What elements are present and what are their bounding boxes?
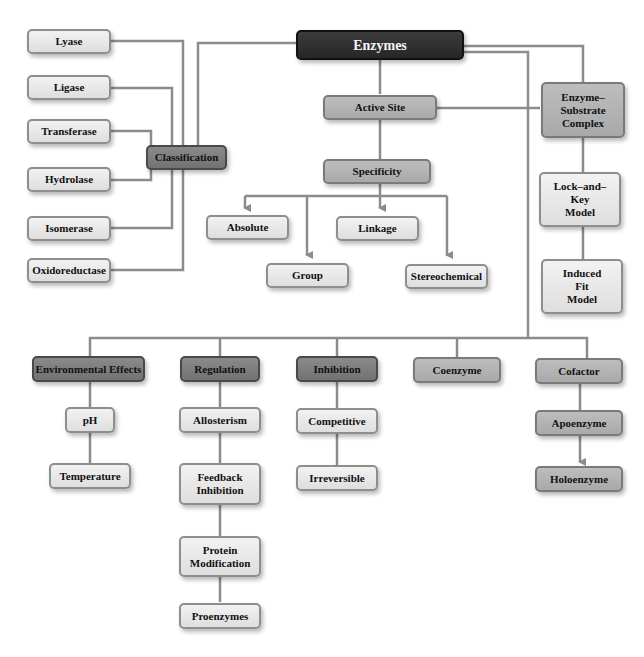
node-competitive: Competitive	[296, 408, 378, 434]
node-coenzyme: Coenzyme	[413, 357, 501, 383]
node-enzyme-substrate-complex: Enzyme– Substrate Complex	[541, 82, 625, 138]
node-ph: pH	[65, 407, 115, 433]
node-lock-and-key-model: Lock–and– Key Model	[539, 172, 621, 227]
node-transferase: Transferase	[27, 119, 111, 144]
node-irreversible: Irreversible	[296, 465, 378, 491]
node-active-site: Active Site	[323, 95, 437, 120]
node-holoenzyme: Holoenzyme	[535, 466, 623, 492]
node-absolute: Absolute	[206, 215, 289, 240]
node-enzymes: Enzymes	[296, 30, 464, 60]
node-ligase: Ligase	[27, 75, 111, 100]
node-environmental-effects: Environmental Effects	[32, 356, 145, 382]
node-protein-modification: Protein Modification	[179, 536, 261, 577]
node-cofactor: Cofactor	[535, 358, 623, 384]
node-induced-fit-model: Induced Fit Model	[541, 259, 623, 314]
node-oxidoreductase: Oxidoreductase	[27, 258, 111, 283]
node-inhibition: Inhibition	[296, 356, 378, 382]
node-temperature: Temperature	[49, 463, 131, 489]
node-lyase: Lyase	[27, 29, 111, 54]
node-proenzymes: Proenzymes	[179, 603, 261, 629]
node-apoenzyme: Apoenzyme	[535, 410, 623, 436]
node-feedback-inhibition: Feedback Inhibition	[179, 463, 261, 505]
node-allosterism: Allosterism	[179, 407, 261, 433]
node-hydrolase: Hydrolase	[27, 167, 111, 192]
node-classification: Classification	[146, 145, 227, 170]
node-regulation: Regulation	[180, 356, 260, 382]
node-group: Group	[266, 263, 349, 288]
node-stereochemical: Stereochemical	[405, 264, 488, 289]
node-linkage: Linkage	[336, 216, 419, 241]
node-specificity: Specificity	[323, 159, 431, 184]
node-isomerase: Isomerase	[27, 216, 111, 241]
